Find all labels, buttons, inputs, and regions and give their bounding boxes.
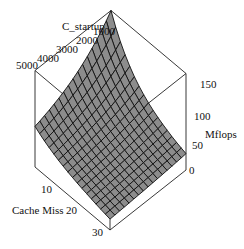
y-tick-10: 10 (41, 183, 53, 195)
z-tick-0: 0 (189, 164, 195, 176)
x-tick-5000: 5000 (16, 59, 39, 71)
z-axis-label: Mflops (205, 128, 237, 140)
surface-plot: C_startup 1000 2000 3000 4000 5000 Cache… (0, 0, 244, 249)
z-tick-100: 100 (194, 110, 211, 122)
x-tick-3000: 3000 (56, 43, 79, 55)
x-tick-2000: 2000 (76, 34, 99, 46)
z-tick-150: 150 (200, 78, 217, 90)
y-tick-30: 30 (92, 226, 104, 238)
y-tick-20: 20 (66, 204, 78, 216)
z-tick-50: 50 (192, 139, 204, 151)
x-tick-4000: 4000 (37, 52, 60, 64)
y-axis-label: Cache Miss (12, 204, 64, 216)
